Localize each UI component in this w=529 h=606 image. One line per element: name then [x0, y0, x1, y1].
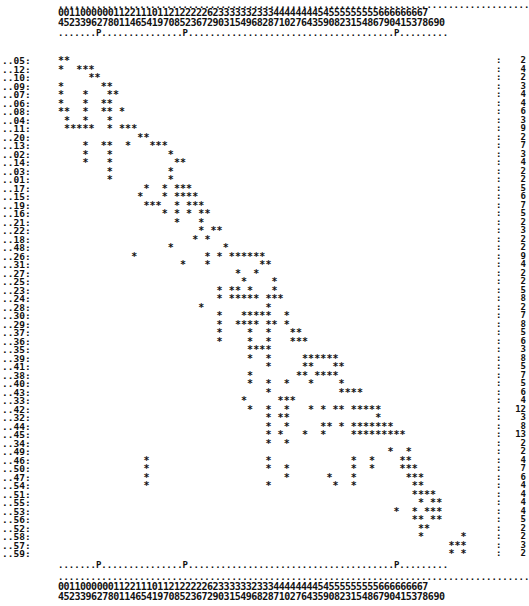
bottom-marker-row: .......P...............P................… — [58, 560, 448, 570]
sparse-matrix-plot: ..05:**:2..12:****:4..10:**:2..09:***:3.… — [0, 56, 528, 558]
nonzero-star: * — [461, 549, 467, 558]
nonzero-star: * — [448, 549, 454, 558]
row-label: ..59: — [2, 549, 31, 558]
matrix-row: ..59:**:2 — [0, 549, 528, 558]
top-column-digits-units: 4523396278011465419708523672903154968287… — [58, 18, 444, 28]
top-marker-row: .......P...............P................… — [58, 28, 448, 38]
row-count: 2 — [510, 549, 526, 558]
right-border: : — [496, 549, 501, 558]
bottom-column-digits-units: 4523396278011465419708523672903154968287… — [58, 592, 444, 602]
